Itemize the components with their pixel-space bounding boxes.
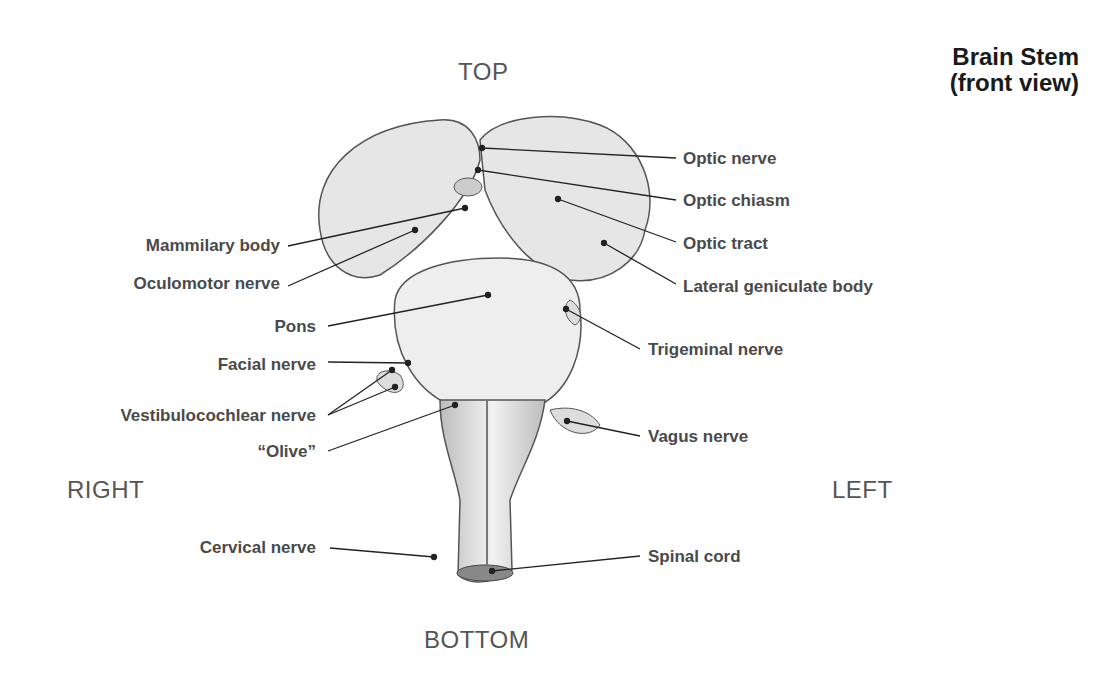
diagram-title: Brain Stem (front view) <box>950 44 1079 96</box>
label-vestibulocochlear-nerve: Vestibulocochlear nerve <box>120 406 316 426</box>
title-line-2: (front view) <box>950 70 1079 96</box>
direction-top: TOP <box>458 58 508 86</box>
label-olive: “Olive” <box>257 442 316 462</box>
label-mammilary-body: Mammilary body <box>146 236 280 256</box>
label-cervical-nerve: Cervical nerve <box>200 538 316 558</box>
brain-stem-illustration <box>0 0 1099 675</box>
label-lateral-geniculate-body: Lateral geniculate body <box>683 277 873 297</box>
label-optic-tract: Optic tract <box>683 234 768 254</box>
direction-bottom: BOTTOM <box>424 626 529 654</box>
label-optic-nerve: Optic nerve <box>683 149 777 169</box>
label-facial-nerve: Facial nerve <box>218 355 316 375</box>
direction-left: LEFT <box>832 476 893 504</box>
label-spinal-cord: Spinal cord <box>648 547 741 567</box>
direction-right: RIGHT <box>67 476 144 504</box>
label-vagus-nerve: Vagus nerve <box>648 427 748 447</box>
label-trigeminal-nerve: Trigeminal nerve <box>648 340 783 360</box>
label-oculomotor-nerve: Oculomotor nerve <box>134 274 280 294</box>
label-pons: Pons <box>274 317 316 337</box>
title-line-1: Brain Stem <box>950 44 1079 70</box>
label-optic-chiasm: Optic chiasm <box>683 191 790 211</box>
